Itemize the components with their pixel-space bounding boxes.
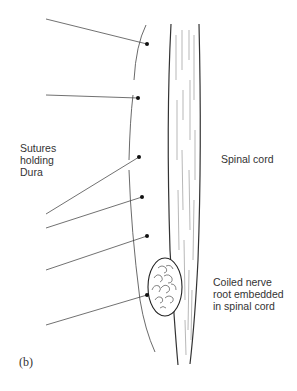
sutures-label: Sutures holding Dura	[20, 142, 56, 178]
sutures-label-line-1: Sutures	[20, 142, 56, 154]
nerve-root-label-line-1: Coiled nerve	[213, 276, 284, 288]
panel-label: (b)	[19, 355, 33, 370]
sutures-label-line-2: holding	[20, 154, 56, 166]
suture-dots	[136, 42, 149, 297]
suture-leaders	[46, 19, 147, 325]
spinal-cord-texture	[176, 30, 195, 355]
nerve-root-label-line-3: in spinal cord	[213, 300, 284, 312]
diagram-canvas	[0, 0, 297, 391]
sutures-label-line-3: Dura	[20, 166, 56, 178]
nerve-root-label-line-2: root embedded	[213, 288, 284, 300]
nerve-root-label: Coiled nerve root embedded in spinal cor…	[213, 276, 284, 312]
spinal-cord-label: Spinal cord	[221, 153, 274, 165]
